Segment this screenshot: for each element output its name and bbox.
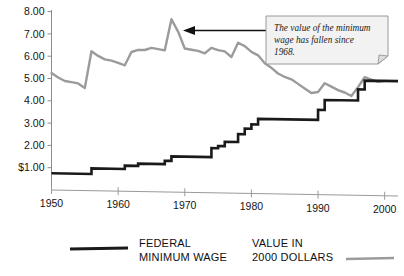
x-axis-tick-label: 2000 [373, 203, 397, 215]
minimum-wage-chart: $1.002.003.004.005.006.007.008.00 195019… [0, 0, 404, 276]
callout-line-3: 1968. [274, 47, 295, 57]
legend-swatch-value-2000-dollars [346, 258, 394, 259]
y-axis-tick-label: 5.00 [24, 72, 45, 84]
x-axis-line [52, 190, 399, 196]
callout-line-2: wage has fallen since [274, 35, 354, 45]
callout-line-1: The value of the minimum [274, 23, 371, 33]
callout-arrow [183, 26, 274, 35]
y-axis-tick-label: 8.00 [24, 5, 45, 17]
x-axis-tick-label: 1980 [240, 200, 264, 212]
legend-label-federal-line1: FEDERAL [139, 237, 191, 249]
legend-label-value-line2: 2000 DOLLARS [252, 251, 333, 263]
callout-box: The value of the minimum wage has fallen… [266, 16, 388, 64]
x-axis-tick-label: 1970 [173, 199, 197, 211]
y-axis-tick-label: 3.00 [24, 117, 45, 129]
y-axis-tick-label: 4.00 [24, 94, 45, 106]
chart-container: $1.002.003.004.005.006.007.008.00 195019… [0, 0, 404, 276]
legend-label-value-line1: VALUE IN [252, 237, 303, 249]
x-axis-tick-label: 1960 [106, 198, 130, 210]
y-axis-ticks: $1.002.003.004.005.006.007.008.00 [18, 5, 51, 173]
x-axis-tick-label: 1950 [40, 197, 64, 209]
y-axis-tick-label: 6.00 [24, 50, 45, 62]
y-axis-tick-label: $1.00 [18, 161, 44, 173]
y-axis-tick-label: 7.00 [24, 28, 45, 40]
y-axis-tick-label: 2.00 [24, 139, 45, 151]
x-axis-tick-label: 1990 [306, 202, 330, 214]
series-federal-minimum-wage [52, 81, 399, 174]
legend-swatch-federal [70, 248, 128, 249]
legend-label-federal-line2: MINIMUM WAGE [139, 251, 227, 263]
chart-legend: FEDERAL MINIMUM WAGE VALUE IN 2000 DOLLA… [70, 237, 394, 263]
